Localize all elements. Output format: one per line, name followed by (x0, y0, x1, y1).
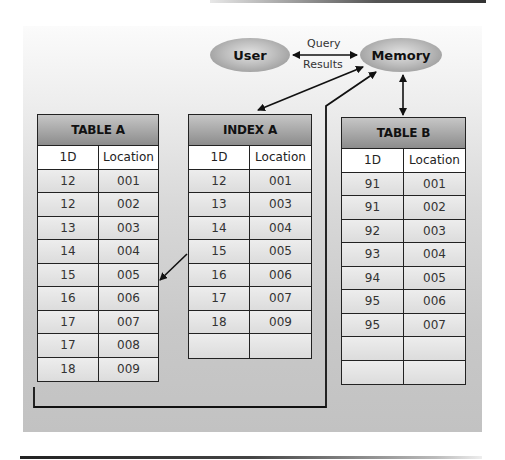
cell-location: 007 (404, 314, 465, 337)
cell-location: 002 (99, 193, 158, 216)
table-row: 95007 (342, 314, 465, 338)
cell-id: 15 (38, 264, 99, 287)
cell-location: 001 (250, 170, 311, 193)
cell-id: 92 (342, 220, 404, 243)
cell-location: 005 (99, 264, 158, 287)
cell-id: 14 (189, 217, 250, 240)
cell-location: 004 (99, 240, 158, 263)
cell-location: 008 (99, 334, 158, 357)
table-row: 16006 (189, 264, 311, 288)
cell-id: 16 (189, 264, 250, 287)
table-row: 18009 (189, 311, 311, 335)
index-tablea-pointer (160, 254, 187, 280)
table-row: 17007 (38, 311, 158, 335)
index-a-title: INDEX A (189, 115, 311, 146)
column-location: Location (99, 146, 158, 169)
cell-location: 003 (404, 220, 465, 243)
table-row: 12001 (189, 170, 311, 194)
cell-location: 004 (250, 217, 311, 240)
cell-location: 004 (404, 243, 465, 266)
cell-id: 12 (38, 170, 99, 193)
table-row (189, 334, 311, 358)
bottom-rule (20, 456, 482, 459)
cell-id: 91 (342, 196, 404, 219)
table-row: 17008 (38, 334, 158, 358)
memory-label: Memory (371, 48, 430, 63)
table-row: 95006 (342, 290, 465, 314)
cell-location: 007 (99, 311, 158, 334)
cell-id: 18 (189, 311, 250, 334)
table-row: 14004 (38, 240, 158, 264)
table-row: 14004 (189, 217, 311, 241)
query-label: Query (307, 37, 340, 50)
cell-id: 16 (38, 287, 99, 310)
cell-id: 18 (38, 358, 99, 382)
cell-id: 91 (342, 173, 404, 196)
table-row: 91002 (342, 196, 465, 220)
table-a-column-header: 1D Location (38, 146, 158, 170)
column-id: 1D (38, 146, 99, 169)
cell-location: 002 (404, 196, 465, 219)
cell-id (189, 334, 250, 358)
user-node: User (210, 38, 290, 72)
table-row: 92003 (342, 220, 465, 244)
table-b-title: TABLE B (342, 118, 465, 149)
cell-location: 009 (250, 311, 311, 334)
cell-id: 17 (189, 287, 250, 310)
table-a: TABLE A 1D Location 12001120021300314004… (37, 114, 159, 382)
table-row: 12002 (38, 193, 158, 217)
table-a-title: TABLE A (38, 115, 158, 146)
table-row: 91001 (342, 173, 465, 197)
cell-location: 006 (404, 290, 465, 313)
cell-location: 001 (404, 173, 465, 196)
cell-id: 95 (342, 314, 404, 337)
cell-id: 95 (342, 290, 404, 313)
cell-location (250, 334, 311, 358)
cell-location: 003 (99, 217, 158, 240)
cell-id: 12 (189, 170, 250, 193)
cell-id (342, 337, 404, 360)
memory-node: Memory (360, 38, 442, 72)
cell-location: 006 (99, 287, 158, 310)
column-id: 1D (342, 149, 404, 172)
table-row (342, 337, 465, 361)
cell-id: 94 (342, 267, 404, 290)
index-a-column-header: 1D Location (189, 146, 311, 170)
table-b-column-header: 1D Location (342, 149, 465, 173)
table-row: 94005 (342, 267, 465, 291)
cell-location: 003 (250, 193, 311, 216)
cell-id (342, 361, 404, 385)
index-a: INDEX A 1D Location 12001130031400415005… (188, 114, 312, 359)
cell-location: 009 (99, 358, 158, 382)
cell-location: 005 (404, 267, 465, 290)
table-row: 93004 (342, 243, 465, 267)
cell-id: 14 (38, 240, 99, 263)
table-row: 16006 (38, 287, 158, 311)
cell-location (404, 361, 465, 385)
cell-location: 001 (99, 170, 158, 193)
cell-id: 13 (189, 193, 250, 216)
table-row: 17007 (189, 287, 311, 311)
table-row: 13003 (189, 193, 311, 217)
memory-index-arrow (258, 67, 363, 110)
cell-id: 17 (38, 334, 99, 357)
column-location: Location (250, 146, 311, 169)
table-row: 12001 (38, 170, 158, 194)
table-row: 15005 (38, 264, 158, 288)
table-row: 13003 (38, 217, 158, 241)
cell-location: 007 (250, 287, 311, 310)
table-b: TABLE B 1D Location 91001910029200393004… (341, 117, 466, 385)
cell-id: 17 (38, 311, 99, 334)
cell-location (404, 337, 465, 360)
results-label: Results (303, 58, 343, 71)
column-id: 1D (189, 146, 250, 169)
cell-id: 15 (189, 240, 250, 263)
column-location: Location (404, 149, 465, 172)
cell-id: 93 (342, 243, 404, 266)
table-row: 18009 (38, 358, 158, 382)
cell-location: 006 (250, 264, 311, 287)
cell-location: 005 (250, 240, 311, 263)
table-row (342, 361, 465, 385)
table-row: 15005 (189, 240, 311, 264)
user-label: User (233, 48, 267, 63)
